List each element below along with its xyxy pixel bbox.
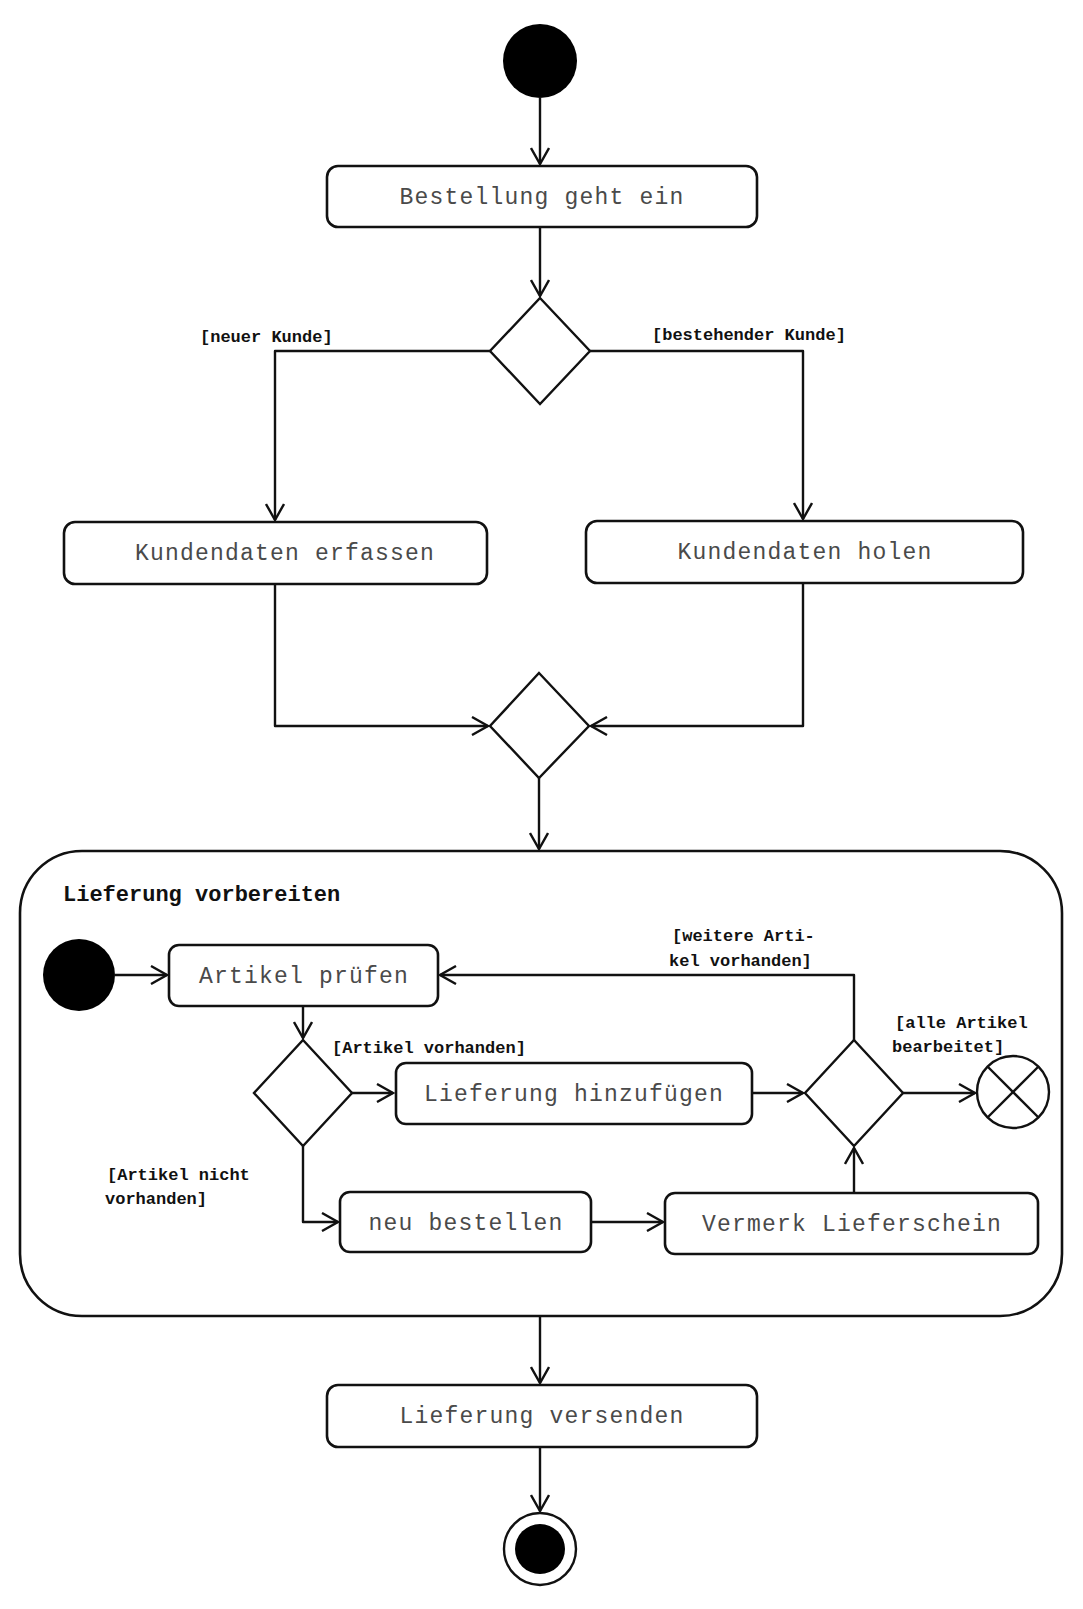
initial-node	[503, 24, 577, 98]
action-fetch-customer[interactable]: Kundendaten holen	[586, 521, 1023, 583]
guard-existing-customer: [bestehender Kunde]	[652, 326, 846, 345]
activity-title: Lieferung vorbereiten	[63, 883, 340, 908]
flow-arrow	[275, 351, 490, 520]
activity-diagram: Bestellung geht ein [neuer Kunde] [beste…	[0, 0, 1083, 1609]
action-check-article[interactable]: Artikel prüfen	[169, 945, 438, 1006]
inner-initial-node	[43, 939, 115, 1011]
flow-arrow	[590, 351, 803, 519]
guard-new-customer: [neuer Kunde]	[200, 328, 333, 347]
guard-article-available: [Artikel vorhanden]	[332, 1039, 526, 1058]
flow-arrow	[591, 583, 803, 726]
action-label: Vermerk Lieferschein	[702, 1212, 1002, 1238]
decision-customer-type	[490, 298, 590, 404]
action-label: Artikel prüfen	[199, 964, 409, 990]
action-label: neu bestellen	[368, 1211, 563, 1237]
action-add-to-delivery[interactable]: Lieferung hinzufügen	[396, 1063, 752, 1124]
action-ship-delivery[interactable]: Lieferung versenden	[327, 1385, 757, 1447]
guard-more-articles-line1: [weitere Arti-	[672, 927, 815, 946]
guard-article-not-available-line2: vorhanden]	[105, 1190, 207, 1209]
action-label: Lieferung hinzufügen	[424, 1082, 724, 1108]
action-reorder[interactable]: neu bestellen	[340, 1192, 591, 1252]
action-label: Kundendaten erfassen	[135, 541, 435, 567]
guard-article-not-available-line1: [Artikel nicht	[107, 1166, 250, 1185]
action-label: Lieferung versenden	[399, 1404, 684, 1430]
action-label: Kundendaten holen	[677, 540, 932, 566]
guard-all-processed-line2: bearbeitet]	[892, 1038, 1004, 1057]
flow-arrow	[275, 584, 488, 726]
guard-more-articles-line2: kel vorhanden]	[669, 952, 812, 971]
activity-final-node	[504, 1513, 576, 1585]
action-note-delivery-slip[interactable]: Vermerk Lieferschein	[665, 1193, 1038, 1254]
action-label: Bestellung geht ein	[399, 185, 684, 211]
guard-all-processed-line1: [alle Artikel	[895, 1014, 1028, 1033]
merge-node	[490, 673, 589, 778]
action-capture-customer[interactable]: Kundendaten erfassen	[64, 522, 487, 584]
action-order-received[interactable]: Bestellung geht ein	[327, 166, 757, 227]
